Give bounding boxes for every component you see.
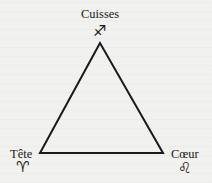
aries-icon: ♈ (16, 160, 29, 175)
vertex-label-top: Cuisses (81, 8, 119, 21)
sagittarius-icon: ♐ (93, 24, 106, 39)
leo-icon: ♌ (178, 161, 191, 176)
